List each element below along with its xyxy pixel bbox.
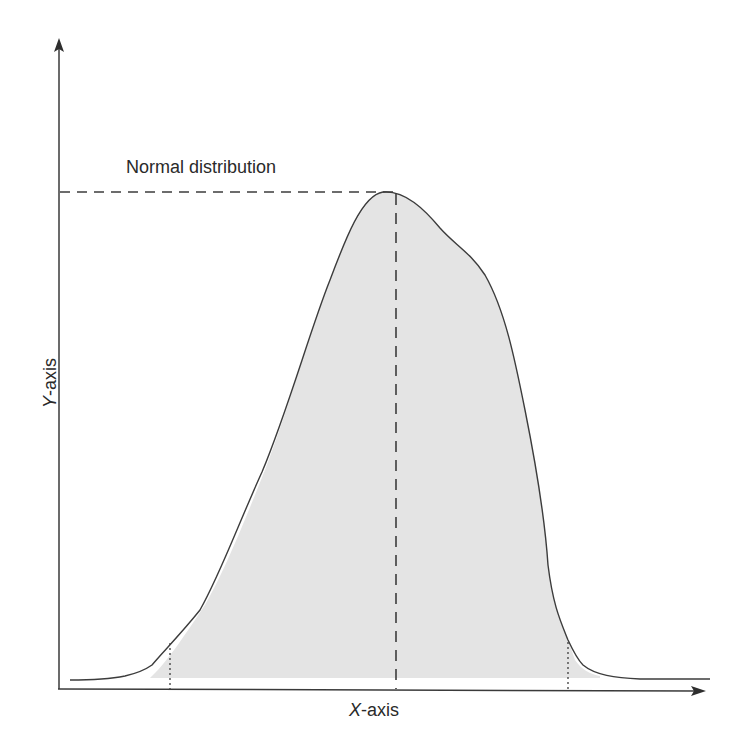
x-axis-label-text: -axis [361, 700, 399, 720]
x-axis-label-variable: X [349, 700, 361, 720]
normal-distribution-diagram [0, 0, 742, 746]
y-axis-label-text: -axis [40, 358, 60, 396]
x-axis-line [58, 689, 697, 691]
chart-title: Normal distribution [126, 157, 276, 178]
y-axis-label: Y-axis [40, 358, 61, 408]
x-axis-label: X-axis [349, 700, 399, 721]
y-axis-label-variable: Y [40, 396, 60, 408]
area-under-curve [150, 192, 600, 678]
